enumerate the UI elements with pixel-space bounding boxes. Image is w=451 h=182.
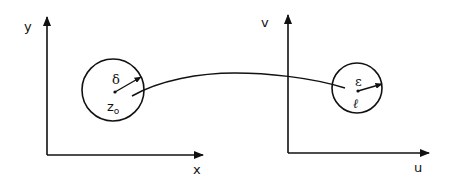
delta-disk: δ zo [82,59,144,121]
l-label: ℓ [353,96,359,111]
left-plane: y x δ zo [24,17,203,177]
y-axis-label: y [24,19,32,34]
u-axis-label: u [414,160,422,175]
right-plane: v u ε ℓ [261,15,429,175]
v-axis-label: v [261,15,269,30]
x-axis-label: x [193,162,201,177]
z0-label: zo [107,99,120,116]
mapping-curve [132,73,345,96]
delta-label: δ [112,72,120,87]
epsilon-label: ε [355,74,362,89]
epsilon-delta-diagram: y x δ zo v u ε ℓ [0,0,451,182]
epsilon-disk: ε ℓ [332,63,382,113]
